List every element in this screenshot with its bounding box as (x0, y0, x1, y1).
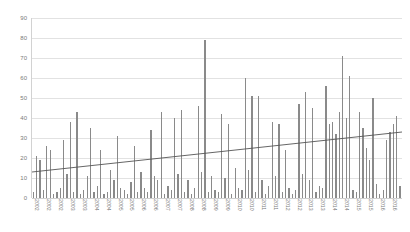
bar (231, 194, 232, 198)
y-axis-tick-label: 0 (24, 195, 27, 201)
y-axis-tick-label: 20 (20, 155, 27, 161)
bar (198, 106, 199, 198)
bar (366, 148, 367, 198)
bar (238, 188, 239, 198)
x-axis-tick-label: 2012 (296, 199, 301, 211)
bar (181, 110, 182, 198)
bar (393, 124, 394, 198)
bar (329, 124, 330, 198)
bar (228, 124, 229, 198)
bar (386, 140, 387, 198)
bar (43, 190, 44, 198)
bar (376, 184, 377, 198)
bar (83, 190, 84, 198)
bar (272, 122, 273, 198)
x-axis-tick-label: 2016 (392, 199, 397, 211)
bar (90, 128, 91, 198)
bar (349, 76, 350, 198)
x-axis-tick-label: 2015 (368, 199, 373, 211)
x-axis-tick-label: 2014 (344, 199, 349, 211)
bar (177, 174, 178, 198)
y-axis-tick-label: 40 (20, 115, 27, 121)
bar (298, 104, 299, 198)
bar (255, 192, 256, 198)
bar (335, 134, 336, 198)
bar (251, 96, 252, 198)
bar (312, 108, 313, 198)
bar (33, 192, 34, 198)
bar (134, 146, 135, 198)
x-axis-tick-label: 2013 (320, 199, 325, 211)
bar (124, 190, 125, 198)
bar (389, 132, 390, 198)
bar (50, 150, 51, 198)
bar (100, 150, 101, 198)
bar (332, 122, 333, 198)
bar (248, 170, 249, 198)
bar (356, 192, 357, 198)
bar (221, 114, 222, 198)
x-axis-tick-label: 2007 (165, 199, 170, 211)
bar (93, 192, 94, 198)
bar (117, 136, 118, 198)
bar (137, 192, 138, 198)
bar (87, 176, 88, 198)
x-axis-tick-label: 2008 (189, 199, 194, 211)
bar (191, 194, 192, 198)
y-axis-tick-label: 90 (20, 15, 27, 21)
y-axis-tick-label: 80 (20, 35, 27, 41)
x-axis-tick-label: 2004 (105, 199, 110, 211)
bar (292, 194, 293, 198)
y-axis-tick-label: 30 (20, 135, 27, 141)
bar (56, 192, 57, 198)
bar (288, 188, 289, 198)
x-axis-tick-label: 2003 (82, 199, 87, 211)
bar (399, 186, 400, 198)
bars-layer (32, 18, 402, 198)
bar (359, 112, 360, 198)
x-axis-tick-label: 2011 (261, 199, 266, 210)
bar (322, 188, 323, 198)
x-axis-tick-label: 2003 (70, 199, 75, 211)
x-axis-tick-label: 2010 (237, 199, 242, 211)
bar (113, 180, 114, 198)
bar (396, 116, 397, 198)
bar (147, 192, 148, 198)
x-axis-tick-label: 2002 (58, 199, 63, 211)
x-axis-tick-label: 2005 (117, 199, 122, 211)
bar (383, 190, 384, 198)
x-axis-tick-label: 2006 (153, 199, 158, 211)
bar (325, 86, 326, 198)
bar (66, 174, 67, 198)
bar (275, 176, 276, 198)
x-axis-tick-label: 2012 (284, 199, 289, 211)
bar (97, 186, 98, 198)
bar (120, 188, 121, 198)
bar (46, 146, 47, 198)
x-axis-tick-label: 2016 (380, 199, 385, 211)
bar (130, 182, 131, 198)
bar (110, 170, 111, 198)
x-axis-tick-label: 2006 (141, 199, 146, 211)
x-axis-tick-label: 2002 (34, 199, 39, 211)
y-axis-tick-label: 70 (20, 55, 27, 61)
bar (302, 174, 303, 198)
x-axis-tick-label: 2005 (129, 199, 134, 211)
bar (305, 92, 306, 198)
bar (39, 160, 40, 198)
bar (342, 56, 343, 198)
x-axis-tick-label: 2013 (308, 199, 313, 211)
bar (282, 192, 283, 198)
bar (174, 118, 175, 198)
bar (73, 192, 74, 198)
bar (63, 140, 64, 198)
bar (346, 118, 347, 198)
bar (150, 130, 151, 198)
bar (208, 192, 209, 198)
bar (211, 176, 212, 198)
bar (187, 180, 188, 198)
x-axis-tick-label: 2011 (272, 199, 277, 210)
bar (103, 194, 104, 198)
x-axis: 2002200220022003200320042004200520052006… (31, 199, 401, 232)
bar (379, 194, 380, 198)
